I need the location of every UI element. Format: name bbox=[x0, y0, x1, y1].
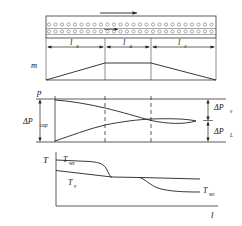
delta-p-cap-label-sub: cap bbox=[40, 122, 48, 128]
dimension-adiabatic bbox=[106, 45, 150, 48]
vapor-flow-arrow bbox=[100, 11, 137, 14]
length-axis-label: l bbox=[211, 210, 214, 220]
t-wc-label: T bbox=[203, 186, 208, 195]
delta-p-l-label: ΔP bbox=[213, 127, 224, 136]
temperature-panel bbox=[56, 152, 218, 206]
label-condenser-length: l bbox=[178, 37, 181, 47]
mass-flow-curve bbox=[46, 63, 216, 80]
t-we-label: T bbox=[63, 155, 68, 164]
delta-p-l-measure bbox=[206, 121, 209, 142]
heat-pipe-figure: l e l a l c m bbox=[0, 0, 242, 226]
t-v-label: T bbox=[68, 178, 73, 187]
pressure-axis-label: p bbox=[36, 87, 42, 97]
label-evaporator-length-sub: e bbox=[77, 43, 80, 49]
temperature-axis-label: T bbox=[43, 155, 49, 165]
label-adiabatic-length: l bbox=[123, 37, 126, 47]
t-wc-label-sub: wc bbox=[209, 191, 215, 197]
pressure-panel bbox=[36, 96, 226, 142]
label-condenser-length-sub: c bbox=[185, 43, 188, 49]
vapor-pressure-curve bbox=[55, 100, 196, 123]
delta-p-v-label-sub: v bbox=[230, 108, 233, 114]
delta-p-v-measure bbox=[203, 99, 213, 121]
dimension-condenser bbox=[152, 45, 215, 48]
mass-flow-panel bbox=[46, 63, 216, 80]
t-wc-curve bbox=[140, 178, 200, 193]
wick-circles-row-1 bbox=[47, 23, 213, 26]
delta-p-l-label-sub: L bbox=[229, 132, 233, 138]
label-adiabatic-length-sub: a bbox=[130, 43, 133, 49]
dimension-evaporator bbox=[47, 45, 104, 48]
delta-p-cap-label: ΔP bbox=[22, 117, 33, 126]
mass-axis-label: m bbox=[31, 60, 37, 70]
t-v-label-sub: v bbox=[74, 183, 77, 189]
t-we-label-sub: we bbox=[69, 160, 75, 166]
t-v-curve bbox=[56, 171, 200, 180]
wick-circles-row-2 bbox=[47, 30, 213, 33]
delta-p-cap-measure bbox=[38, 99, 41, 142]
delta-p-v-label: ΔP bbox=[213, 103, 224, 112]
liquid-pressure-curve bbox=[55, 119, 196, 141]
label-evaporator-length: l bbox=[70, 37, 73, 47]
heat-pipe-schematic bbox=[46, 11, 216, 38]
figure-container: l e l a l c m bbox=[0, 0, 242, 226]
